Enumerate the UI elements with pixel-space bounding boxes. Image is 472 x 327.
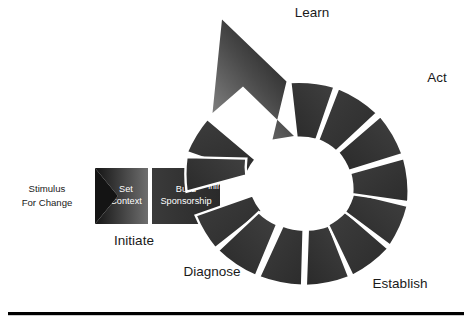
segment-create-solution-line-2: Solution bbox=[409, 195, 439, 205]
segment-pilot-test-solution-line-1: Pilot/Test bbox=[408, 134, 442, 144]
stimulus-label-line-1: Stimulus bbox=[29, 183, 66, 194]
stage-label-learn: Learn bbox=[295, 5, 330, 20]
process-spiral-svg: Set Context Build Sponsorship Charter In… bbox=[0, 0, 472, 327]
stage-label-establish: Establish bbox=[373, 276, 428, 291]
stage-label-diagnose: Diagnose bbox=[183, 264, 240, 279]
diagram-canvas: Set Context Build Sponsorship Charter In… bbox=[0, 0, 472, 327]
segment-analyze-validate-line-1: Analyze & bbox=[318, 39, 355, 49]
segment-analyze-validate-line-2: Validate bbox=[322, 50, 351, 60]
segment-propose-future-actions-line-3: Actions bbox=[275, 60, 302, 70]
set-context-label-1: Set bbox=[119, 184, 133, 194]
segment-refine-solution-line-2: Solution bbox=[392, 102, 422, 112]
segment-implement-solution-line-1: Implement bbox=[355, 57, 394, 67]
stimulus-label-line-2: For Change bbox=[22, 197, 73, 208]
segment-create-solution-line-1: Create bbox=[412, 184, 437, 194]
segment-refine-solution-line-1: Refine bbox=[395, 91, 419, 101]
stage-label-initiate: Initiate bbox=[114, 233, 154, 248]
segment-implement-solution-line-2: Solution bbox=[359, 68, 389, 78]
stage-label-act: Act bbox=[427, 70, 447, 85]
segment-pilot-test-solution-line-2: Solution bbox=[409, 145, 439, 155]
build-sponsorship-label-2: Sponsorship bbox=[160, 196, 211, 206]
segment-propose-future-actions-line-1: Propose bbox=[273, 38, 304, 48]
segment-propose-future-actions-line-2: Future bbox=[276, 49, 300, 59]
bottom-divider-rule bbox=[8, 312, 464, 315]
stimulus-for-change-label: Stimulus For Change bbox=[22, 183, 73, 208]
